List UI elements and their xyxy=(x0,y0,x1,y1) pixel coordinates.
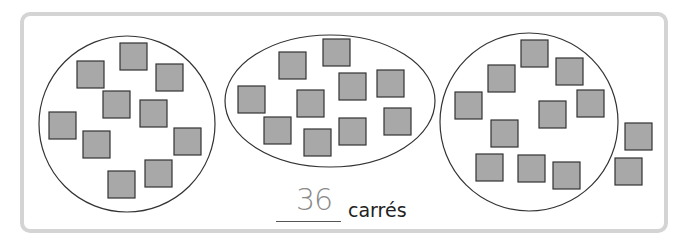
unit-label: carrés xyxy=(348,199,407,221)
squares xyxy=(49,39,652,198)
answer-value[interactable]: 36 xyxy=(296,182,332,217)
answer-underline xyxy=(276,221,341,222)
grouping-illustration xyxy=(0,0,692,247)
